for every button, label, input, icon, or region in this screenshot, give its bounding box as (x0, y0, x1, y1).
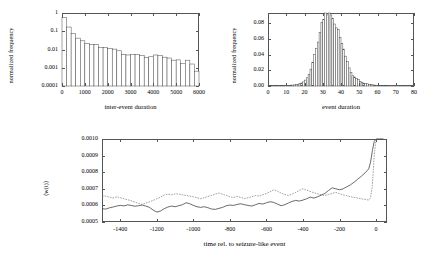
histogram-bar (162, 57, 167, 86)
histogram-bar (326, 15, 328, 86)
axis-tick-mark (193, 139, 194, 142)
axis-tick-mark (384, 222, 387, 223)
axis-tick-mark (303, 219, 304, 222)
axis-tick-mark (268, 55, 271, 56)
panel1-histogram (62, 13, 199, 86)
axis-tick-mark (102, 172, 105, 173)
histogram-bar (135, 55, 140, 86)
histogram-bar (67, 27, 72, 86)
histogram-bar (292, 85, 294, 86)
axis-tick-mark (359, 83, 360, 86)
axis-tick-mark (62, 13, 63, 16)
y-tick-label: 0.0009 (54, 152, 98, 158)
axis-tick-mark (157, 139, 158, 142)
axis-tick-mark (85, 13, 86, 16)
histogram-bar (131, 55, 136, 86)
axis-tick-mark (102, 189, 105, 190)
y-tick-label: 0.0001 (22, 82, 58, 88)
y-tick-label: 0.0005 (54, 218, 98, 224)
axis-tick-mark (120, 219, 121, 222)
trace-solid (102, 139, 383, 212)
panel-inter-event-duration: normalized frequency 10.10.010.0010.0001… (0, 0, 215, 125)
panel1-x-axis-label: inter-event duration (62, 103, 199, 110)
histogram-bar (117, 51, 122, 86)
panel3-lines (102, 139, 387, 222)
axis-tick-mark (268, 13, 269, 16)
histogram-bar (319, 33, 321, 86)
x-tick-label: 30 (313, 89, 333, 95)
histogram-bar (323, 20, 325, 86)
histogram-bar (295, 85, 297, 86)
histogram-bar (103, 48, 108, 86)
axis-tick-mark (411, 55, 414, 56)
axis-tick-mark (230, 219, 231, 222)
axis-tick-mark (411, 70, 414, 71)
histogram-bar (94, 44, 99, 86)
axis-tick-mark (268, 70, 271, 71)
axis-tick-mark (359, 13, 360, 16)
axis-tick-mark (102, 222, 105, 223)
axis-tick-mark (62, 31, 65, 32)
axis-tick-mark (286, 13, 287, 16)
axis-tick-mark (268, 23, 271, 24)
histogram-bar (332, 18, 334, 86)
histogram-bar (301, 83, 303, 86)
histogram-bar (354, 77, 356, 86)
panel-event-duration: normalized frequency 0.000.020.040.060.0… (215, 0, 427, 125)
axis-tick-mark (157, 219, 158, 222)
y-tick-label: 0.02 (235, 66, 264, 72)
y-tick-label: 0.0010 (54, 135, 98, 141)
figure-canvas: normalized frequency 10.10.010.0010.0001… (0, 0, 427, 266)
histogram-bar (350, 72, 352, 86)
histogram-bar (181, 64, 186, 86)
panel-mean-weight: ⟨w(t)⟩ 0.00050.00060.00070.00080.00090.0… (0, 125, 427, 266)
x-tick-label: 80 (404, 89, 424, 95)
axis-tick-mark (378, 13, 379, 16)
axis-tick-mark (411, 39, 414, 40)
y-tick-label: 0.01 (22, 46, 58, 52)
histogram-bar (176, 60, 181, 86)
axis-tick-mark (62, 83, 63, 86)
histogram-bar (337, 29, 339, 86)
y-tick-label: 0.0006 (54, 201, 98, 207)
histogram-bar (352, 76, 354, 86)
x-tick-label: 0 (362, 226, 390, 232)
histogram-bar (121, 55, 126, 86)
x-tick-label: -800 (216, 226, 244, 232)
histogram-bar (330, 15, 332, 86)
axis-tick-mark (102, 156, 105, 157)
histogram-bar (312, 62, 314, 86)
axis-tick-mark (384, 205, 387, 206)
y-tick-label: 0.06 (235, 35, 264, 41)
axis-tick-mark (268, 83, 269, 86)
histogram-bar (315, 48, 317, 86)
x-tick-label: 60 (368, 89, 388, 95)
histogram-bar (368, 84, 370, 86)
histogram-bar (190, 64, 195, 86)
axis-tick-mark (153, 13, 154, 16)
axis-tick-mark (384, 172, 387, 173)
axis-tick-mark (323, 13, 324, 16)
histogram-bar (336, 28, 338, 86)
histogram-bar (185, 60, 190, 86)
y-tick-label: 0.0008 (54, 168, 98, 174)
axis-tick-mark (193, 219, 194, 222)
axis-tick-mark (102, 139, 105, 140)
y-tick-label: 0.001 (22, 64, 58, 70)
x-tick-label: -200 (326, 226, 354, 232)
axis-tick-mark (120, 139, 121, 142)
histogram-bar (317, 42, 319, 86)
histogram-bar (314, 55, 316, 86)
axis-tick-mark (384, 156, 387, 157)
histogram-bar (328, 13, 330, 86)
x-tick-label: 0 (258, 89, 278, 95)
axis-tick-mark (396, 13, 397, 16)
axis-tick-mark (305, 83, 306, 86)
histogram-bar (297, 84, 299, 86)
histogram-bar (112, 49, 117, 86)
histogram-bar (306, 78, 308, 86)
histogram-bar (374, 85, 376, 86)
axis-tick-mark (196, 86, 199, 87)
y-tick-label: 0.00 (235, 82, 264, 88)
histogram-bar (346, 62, 348, 86)
